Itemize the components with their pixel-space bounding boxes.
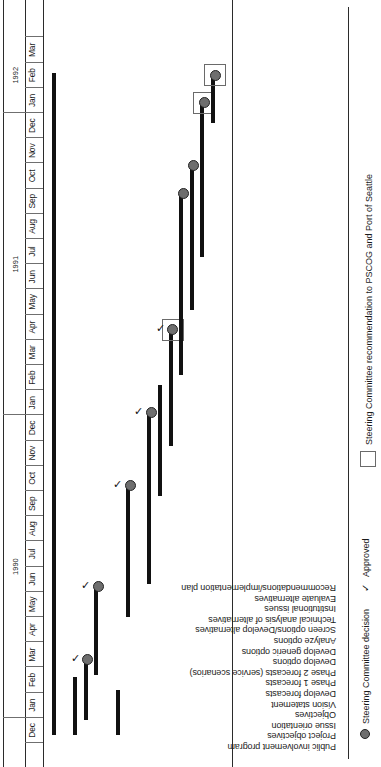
month-label: Dec xyxy=(27,114,37,138)
month-label: Mar xyxy=(27,340,37,364)
approved-check-icon: ✓ xyxy=(71,653,80,664)
legend-item: ✓Approved xyxy=(360,538,371,592)
year-label: 1990 xyxy=(11,547,20,587)
year-tick xyxy=(3,112,25,113)
month-label: Apr xyxy=(27,315,37,339)
month-label: Feb xyxy=(27,366,37,390)
month-label: Mar xyxy=(27,38,37,62)
year-tick xyxy=(3,717,25,718)
task-label-column: Public involvement programProject object… xyxy=(232,0,342,767)
task-label: Project objectives xyxy=(267,731,336,741)
approved-check-icon: ✓ xyxy=(81,580,90,591)
gantt-bar[interactable] xyxy=(169,330,173,446)
month-label: Aug xyxy=(27,517,37,541)
legend-box-icon xyxy=(360,451,376,467)
month-label: Mar xyxy=(27,643,37,667)
gantt-bar[interactable] xyxy=(94,587,98,675)
task-label: Develop generic options xyxy=(242,647,336,657)
gantt-bar[interactable] xyxy=(126,486,130,617)
plot-area: ✓✓✓✓✓ xyxy=(44,0,226,767)
rotated-chart-wrapper: 199019911992 DecJanFebMarAprMayJunJulAug… xyxy=(0,0,381,767)
month-label: May xyxy=(27,592,37,616)
milestone-marker[interactable] xyxy=(125,480,136,491)
month-label: Oct xyxy=(27,164,37,188)
month-label: Apr xyxy=(27,618,37,642)
month-label: Nov xyxy=(27,441,37,465)
month-label: Nov xyxy=(27,139,37,163)
task-label: Phase 2 forecasts (service scenarios) xyxy=(190,668,336,678)
month-label: Dec xyxy=(27,416,37,440)
legend-label: Steering Committee decision xyxy=(361,609,371,724)
month-label: Jan xyxy=(27,391,37,415)
gantt-bar[interactable] xyxy=(73,678,77,736)
task-label: Analyze options xyxy=(274,636,336,646)
approved-check-icon: ✓ xyxy=(134,406,143,417)
gantt-bar[interactable] xyxy=(147,413,151,584)
gantt-bar[interactable] xyxy=(190,166,194,310)
legend-item: Steering Committee recommendation to PSC… xyxy=(360,174,376,467)
month-label: Sep xyxy=(27,189,37,213)
approved-check-icon: ✓ xyxy=(156,323,165,334)
year-tick xyxy=(3,414,25,415)
month-label: Jun xyxy=(27,265,37,289)
month-label: Feb xyxy=(27,668,37,692)
month-label: Oct xyxy=(27,466,37,490)
month-label: Jan xyxy=(27,693,37,717)
milestone-marker[interactable] xyxy=(146,407,157,418)
milestone-marker[interactable] xyxy=(210,70,221,81)
month-label: Jun xyxy=(27,567,37,591)
month-label: Aug xyxy=(27,214,37,238)
approved-check-icon: ✓ xyxy=(113,479,122,490)
legend-divider xyxy=(348,7,349,759)
month-label: Jul xyxy=(27,240,37,264)
month-label: Sep xyxy=(27,492,37,516)
task-label: Technical analysis of alternatives xyxy=(208,615,336,625)
gantt-bar[interactable] xyxy=(158,385,162,496)
month-tick xyxy=(25,36,43,37)
month-label: Jul xyxy=(27,542,37,566)
task-label: Vision statement xyxy=(271,700,336,710)
milestone-marker[interactable] xyxy=(188,160,199,171)
year-label: 1991 xyxy=(11,244,20,284)
month-label: Dec xyxy=(27,718,37,742)
task-label: Issue orientation xyxy=(272,721,336,731)
gantt-bar[interactable] xyxy=(179,194,183,375)
legend-check-icon: ✓ xyxy=(360,582,371,592)
task-label: Institutional issues xyxy=(264,604,336,614)
milestone-marker[interactable] xyxy=(178,188,189,199)
gantt-chart: 199019911992 DecJanFebMarAprMayJunJulAug… xyxy=(0,0,381,767)
task-label: Public involvement program xyxy=(228,742,336,752)
legend-dot-icon xyxy=(360,729,370,739)
chart-legend: Steering Committee decision✓ApprovedStee… xyxy=(348,0,381,767)
task-label: Screen options/Develop alternatives xyxy=(195,625,336,635)
task-label: Develop options xyxy=(273,657,336,667)
axis-line-middle xyxy=(25,0,26,767)
month-label: Jan xyxy=(27,88,37,112)
task-label: Objectives xyxy=(295,710,336,720)
legend-label: Steering Committee recommendation to PSC… xyxy=(364,174,374,445)
milestone-marker[interactable] xyxy=(93,581,104,592)
time-axis: 199019911992 DecJanFebMarAprMayJunJulAug… xyxy=(0,0,44,767)
milestone-marker[interactable] xyxy=(82,654,93,665)
task-label: Recommendations/implementation plan xyxy=(181,583,336,593)
task-label: Evaluate alternatives xyxy=(255,594,336,604)
legend-label: Approved xyxy=(361,538,371,577)
label-divider-top xyxy=(232,0,233,767)
legend-item: Steering Committee decision xyxy=(360,609,371,739)
year-label: 1992 xyxy=(11,55,20,95)
gantt-bar[interactable] xyxy=(116,690,120,735)
gantt-bar[interactable] xyxy=(84,660,88,720)
gantt-bar[interactable] xyxy=(200,103,204,257)
task-label: Phase 1 forecasts xyxy=(266,678,336,688)
axis-line-top xyxy=(3,0,4,767)
month-label: Feb xyxy=(27,63,37,87)
month-label: May xyxy=(27,290,37,314)
gantt-bar[interactable] xyxy=(52,73,56,736)
task-label: Develop forecasts xyxy=(266,689,336,699)
